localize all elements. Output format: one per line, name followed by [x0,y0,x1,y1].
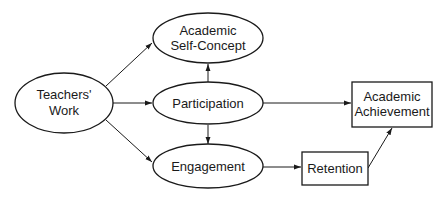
node-retention: Retention [302,152,368,185]
node-academic-self-concept: Academic Self-Concept [153,13,263,63]
node-participation: Participation [153,82,263,124]
node-label: Self-Concept [170,38,246,53]
node-label: Academic [363,89,421,104]
node-label: Academic [179,23,237,38]
edge-teachers-to-engagement [106,120,152,162]
node-label: Teachers' [36,87,91,102]
node-label: Achievement [354,104,430,119]
node-label: Engagement [171,159,245,174]
edge-retention-to-achievement [368,128,392,168]
node-label: Work [49,103,80,118]
node-teachers-work: Teachers' Work [15,73,113,133]
node-academic-achievement: Academic Achievement [352,82,432,127]
node-label: Retention [307,161,363,176]
path-diagram: Teachers' Work Academic Self-Concept Par… [0,0,447,198]
edge-teachers-to-selfconcept [106,43,152,86]
node-label: Participation [172,96,244,111]
node-engagement: Engagement [153,144,263,188]
